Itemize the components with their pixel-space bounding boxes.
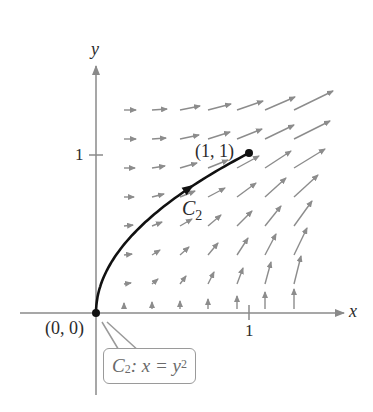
field-arrow: [152, 166, 165, 168]
field-arrow: [124, 225, 133, 226]
field-arrow: [237, 129, 262, 139]
curve-name-letter: C: [182, 197, 195, 219]
callout-equation: : x = y: [131, 355, 181, 377]
field-arrow: [265, 234, 276, 255]
field-arrow: [124, 254, 132, 255]
point-origin: [92, 309, 100, 317]
field-arrow: [237, 238, 248, 255]
callout-superscript: 2: [181, 357, 187, 372]
field-arrow: [180, 135, 199, 139]
callout-subscript: 2: [125, 362, 131, 377]
field-arrow: [208, 215, 221, 226]
field-arrow: [265, 97, 295, 110]
field-arrow: [294, 121, 330, 139]
vector-field-figure: y x 1 1 (0, 0) (1, 1) C2 C2: x = y2: [0, 0, 373, 412]
vector-field-arrows: [124, 91, 333, 309]
field-arrow: [152, 222, 162, 226]
field-arrow: [180, 247, 189, 255]
field-arrow: [208, 272, 214, 284]
field-arrow: [294, 175, 318, 197]
end-point-label: (1, 1): [195, 142, 234, 160]
field-arrow: [152, 250, 160, 255]
field-arrow: [208, 243, 218, 255]
field-arrow: [180, 106, 200, 110]
field-arrow: [294, 91, 333, 110]
curve-equation-callout: C2: x = y2: [103, 348, 196, 384]
field-arrow: [294, 256, 301, 284]
field-arrow: [237, 211, 252, 226]
field-arrow: [152, 279, 158, 284]
field-arrow: [237, 183, 256, 197]
field-arrow: [294, 149, 325, 168]
y-tick-label-1: 1: [75, 146, 84, 163]
y-axis-label: y: [91, 40, 99, 58]
field-arrow: [180, 163, 197, 168]
curve-name-subscript: 2: [195, 208, 202, 223]
origin-point-label: (0, 0): [45, 319, 84, 337]
callout-curve-letter: C: [112, 355, 125, 377]
field-arrow: [265, 262, 271, 284]
field-arrow: [237, 268, 243, 284]
field-arrow: [294, 201, 312, 226]
x-tick-label-1: 1: [245, 322, 254, 339]
field-arrow: [152, 138, 166, 139]
field-arrow: [265, 178, 286, 197]
field-arrow: [124, 283, 131, 284]
field-arrow: [208, 188, 225, 197]
curve-c2: [96, 153, 249, 313]
curve-name-label: C2: [182, 198, 202, 223]
x-axis-label: x: [349, 302, 357, 320]
field-arrow: [152, 109, 167, 110]
field-arrow: [265, 125, 294, 139]
field-arrow: [208, 132, 230, 139]
field-arrow: [152, 194, 164, 197]
field-arrow: [294, 228, 307, 255]
point-one-one: [245, 149, 253, 157]
field-arrow: [265, 151, 291, 168]
field-arrow: [180, 276, 186, 284]
field-arrow: [208, 104, 231, 110]
field-arrow: [237, 101, 263, 110]
field-arrow: [265, 206, 281, 226]
